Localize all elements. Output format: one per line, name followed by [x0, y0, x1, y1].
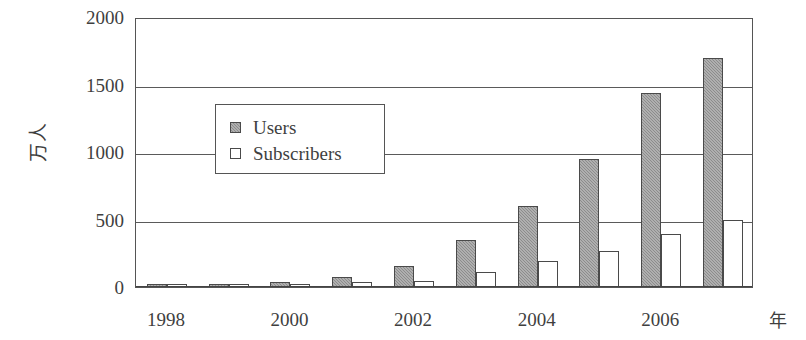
- x-axis-title: 年: [769, 312, 787, 331]
- y-tick-label: 500: [96, 211, 125, 230]
- x-tick-label: 2000: [271, 310, 309, 329]
- bar-group: [445, 19, 507, 287]
- chart-legend: Users Subscribers: [215, 104, 385, 174]
- legend-entry-subscribers: Subscribers: [230, 140, 384, 166]
- y-axis-tick-labels: 0500100015002000: [58, 0, 130, 340]
- x-tick-label: 2006: [641, 310, 679, 329]
- bar-group: [507, 19, 569, 287]
- bar-users: [394, 266, 414, 287]
- legend-label-subscribers: Subscribers: [253, 144, 342, 163]
- bar-users: [641, 93, 661, 287]
- bar-group: [569, 19, 631, 287]
- y-tick-label: 0: [115, 278, 125, 297]
- bar-subscribers: [538, 261, 558, 287]
- y-tick-label: 1000: [86, 143, 124, 162]
- legend-swatch-subscribers-icon: [230, 148, 241, 159]
- bar-group: [692, 19, 754, 287]
- bar-users: [703, 58, 723, 288]
- bar-group: [136, 19, 198, 287]
- bar-subscribers: [476, 272, 496, 287]
- x-tick-label: 2002: [394, 310, 432, 329]
- bar-users: [456, 240, 476, 287]
- y-tick-label: 1500: [86, 76, 124, 95]
- bar-users: [518, 206, 538, 287]
- bar-group: [383, 19, 445, 287]
- legend-label-users: Users: [253, 118, 296, 137]
- bar-users: [579, 159, 599, 287]
- bar-subscribers: [599, 251, 619, 287]
- bar-group: [630, 19, 692, 287]
- y-axis-title: 万人: [23, 112, 50, 172]
- x-tick-label: 1998: [147, 310, 185, 329]
- x-axis-tick-labels: 19982000200220042006: [0, 310, 806, 336]
- y-tick-label: 2000: [86, 8, 124, 27]
- legend-swatch-users-icon: [230, 122, 241, 133]
- bar-chart: 万人 0500100015002000 Users Subscribers 19…: [0, 0, 806, 340]
- bar-subscribers: [661, 234, 681, 287]
- x-tick-label: 2004: [518, 310, 556, 329]
- axis-baseline: [136, 286, 752, 287]
- bar-subscribers: [723, 220, 743, 288]
- legend-entry-users: Users: [230, 114, 384, 140]
